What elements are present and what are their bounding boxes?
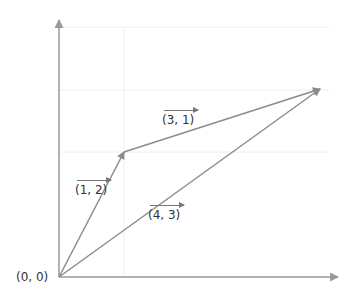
vector-diagram — [0, 0, 359, 298]
vector-sum-label: (4, 3) — [148, 208, 180, 222]
vector-a — [59, 152, 124, 277]
vector-arrow-icon — [150, 205, 184, 206]
vector-b-label: (3, 1) — [162, 113, 194, 127]
vector-arrow-icon — [77, 180, 111, 181]
origin-label: (0, 0) — [16, 270, 48, 284]
vector-arrow-icon — [164, 110, 198, 111]
vector-b — [124, 89, 320, 152]
grid — [59, 27, 330, 277]
vector-a-label: (1, 2) — [75, 183, 107, 197]
